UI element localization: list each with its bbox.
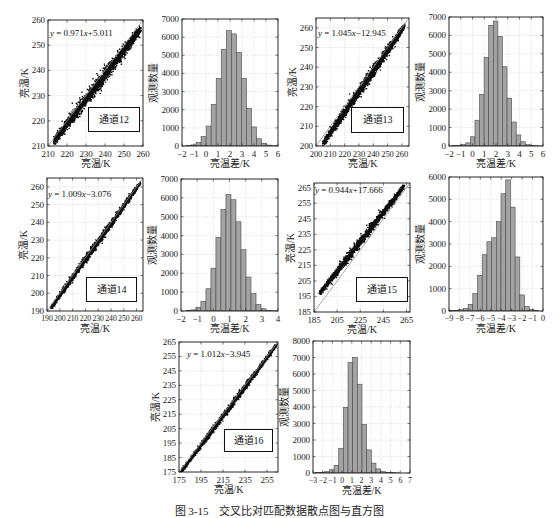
y-tick-label: 190 (31, 306, 44, 316)
histogram-channel-14: −2−10123401000200030004000500060007000亮温… (181, 179, 278, 311)
histogram-bar (343, 407, 348, 473)
histogram-bar (473, 294, 478, 311)
y-tick-label: 5000 (292, 386, 310, 396)
y-tick-label: 4000 (292, 402, 310, 412)
histogram-bar (236, 222, 241, 311)
x-tick-label: 265 (400, 315, 413, 325)
data-layer (179, 342, 278, 474)
histogram-bar (236, 53, 241, 146)
y-tick-label: 220 (32, 116, 45, 126)
x-tick-label: 210 (324, 149, 336, 159)
y-axis-label: 亮温/K (150, 392, 162, 422)
data-layer (315, 358, 399, 474)
regression-equation: y = 0.944x+17.666 (315, 185, 383, 195)
y-tick-label: 0 (174, 306, 178, 316)
y-tick-label: 220 (31, 253, 44, 263)
plot-area (449, 17, 543, 146)
x-tick-label: 5 (264, 149, 268, 159)
x-tick-label: 5 (389, 476, 393, 486)
x-tick-label: 250 (118, 314, 129, 324)
channel-label: 通道16 (234, 435, 264, 447)
histogram-bar (196, 142, 201, 146)
y-tick-label: 265 (298, 183, 311, 193)
y-tick-label: 205 (163, 424, 176, 434)
y-tick-label: 185 (298, 307, 311, 317)
y-tick-label: 3000 (161, 87, 179, 97)
histogram-channel-16: −3−2−10123456701000200030004000500060007… (313, 341, 410, 473)
histogram-bar (216, 78, 221, 146)
one-to-one-reference-line (179, 342, 278, 472)
histogram-channel-12: −2−1012345601000200030004000500060007000… (182, 19, 278, 146)
histogram-bar (221, 210, 226, 311)
histogram-bar (231, 34, 236, 146)
histogram-bar (376, 469, 381, 473)
y-tick-label: 1000 (292, 452, 310, 462)
histogram-bar (201, 302, 206, 311)
x-axis-label: 亮温/K (81, 158, 111, 170)
x-tick-label: −7 (466, 314, 475, 324)
regression-equation: y = 1.009x−3.076 (48, 189, 111, 199)
data-layer (452, 21, 539, 146)
x-tick-label: 260 (136, 149, 149, 159)
histogram-bar (334, 465, 339, 473)
y-tick-label: 4000 (428, 67, 446, 77)
y-tick-label: 205 (298, 276, 311, 286)
x-tick-label: −1 (456, 149, 465, 159)
x-tick-label: −8 (455, 314, 464, 324)
histogram-bar (466, 143, 471, 146)
histogram-bar (348, 362, 353, 473)
y-tick-label: 2000 (292, 435, 310, 445)
scatter-plot-channel-15: 1852052252452651851952052152252352452552… (314, 183, 410, 312)
y-tick-label: 245 (163, 366, 176, 376)
histogram-bar (357, 384, 362, 473)
x-tick-label: 195 (194, 475, 207, 485)
data-layer (186, 31, 277, 146)
scatter-plot-channel-13: 2002102202302402502602002102202302402502… (316, 18, 409, 146)
y-tick-label: 230 (300, 82, 313, 92)
histogram-bar (516, 135, 521, 146)
y-tick-label: 2000 (428, 261, 446, 271)
histogram-bar (206, 289, 211, 311)
x-tick-label: 4 (517, 149, 521, 159)
y-tick-label: 0 (175, 141, 179, 151)
histogram-bars (452, 21, 539, 146)
y-tick-label: 210 (32, 141, 45, 151)
x-tick-label: 260 (396, 149, 408, 159)
histogram-bar (221, 49, 226, 146)
plot-area (313, 341, 410, 473)
y-tick-label: 250 (32, 40, 45, 50)
x-tick-label: 205 (331, 315, 344, 325)
histogram-bar (480, 94, 485, 146)
x-tick-label: 0 (541, 314, 545, 324)
histogram-bar (211, 268, 216, 311)
y-tick-label: 1000 (428, 284, 446, 294)
histogram-bar (489, 25, 494, 146)
histogram-bar (216, 237, 221, 311)
y-axis-label: 亮温/K (287, 67, 299, 97)
histogram-bar (211, 104, 216, 146)
x-tick-label: 5 (529, 149, 533, 159)
y-tick-label: 2000 (428, 104, 446, 114)
figure-caption: 图 3-15 交叉比对匹配数据散点图与直方图 (0, 505, 559, 518)
y-tick-label: 255 (163, 351, 176, 361)
histogram-bar (496, 222, 501, 311)
x-tick-label: 4 (276, 314, 280, 324)
y-tick-label: 6000 (292, 369, 310, 379)
y-tick-label: 1000 (428, 123, 446, 133)
y-tick-label: 6000 (428, 30, 446, 40)
y-tick-label: 5000 (428, 49, 446, 59)
x-axis-label: 亮温/K (347, 324, 377, 336)
y-tick-label: 215 (298, 260, 311, 270)
histogram-bar (251, 294, 256, 311)
y-tick-label: 195 (163, 438, 176, 448)
y-tick-label: 3000 (292, 419, 310, 429)
y-axis-label: 亮温/K (18, 230, 30, 260)
y-tick-label: 235 (163, 380, 176, 390)
x-tick-label: 250 (117, 149, 130, 159)
y-tick-label: 5000 (161, 50, 179, 60)
y-axis-label: 观测数量 (415, 224, 427, 264)
histogram-bars (186, 194, 276, 311)
plot-area (181, 179, 278, 311)
y-tick-label: 5000 (428, 194, 446, 204)
y-tick-label: 3000 (428, 86, 446, 96)
